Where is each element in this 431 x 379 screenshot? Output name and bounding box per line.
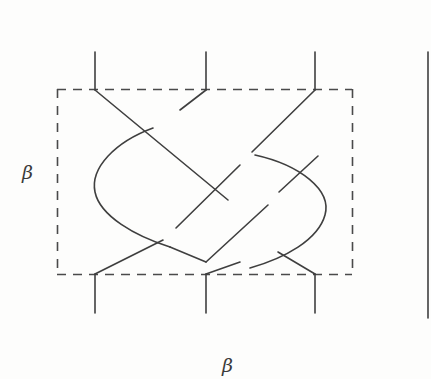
braid-strand-b-upper (180, 90, 206, 110)
figure-canvas: β β ⊗ 1 (0, 0, 431, 379)
top-strand-stubs (95, 52, 315, 90)
braid-strand-d-upper (279, 156, 318, 192)
braid-strands (94, 90, 326, 274)
braid-strand-a-lower (206, 262, 240, 274)
braid-strand-c-lower (95, 240, 163, 274)
braid-strand-d-diagonal (206, 205, 268, 262)
braid-diagram-svg (0, 0, 431, 379)
braid-strand-c-upper (252, 90, 315, 152)
figure-caption: β ⊗ 1 (0, 337, 431, 379)
braid-strand-a-upper (95, 90, 228, 200)
braid-strand-e-lower (278, 252, 315, 274)
bottom-strand-stubs (95, 274, 315, 313)
braid-strand-b-lower (170, 247, 206, 262)
braid-strand-b-left-lobe (94, 128, 170, 247)
braid-box-label: β (22, 163, 33, 182)
braid-strand-c-middle (176, 165, 240, 228)
tensor-product-icon: ⊗ (218, 373, 238, 379)
